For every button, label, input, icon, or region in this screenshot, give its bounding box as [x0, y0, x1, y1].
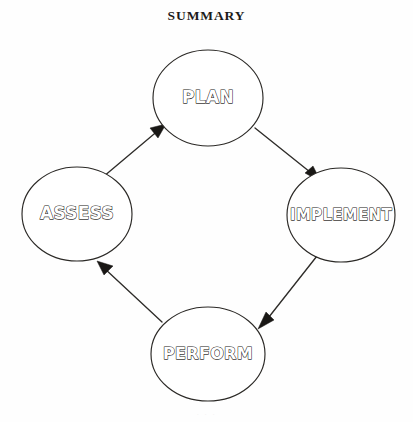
- node-implement[interactable]: IMPLEMENT IMPLEMENT: [287, 168, 395, 262]
- edge-assess-to-plan-line: [103, 129, 160, 177]
- edge-plan-to-implement: [255, 128, 321, 182]
- edge-implement-to-perform: [258, 256, 317, 329]
- cycle-diagram: SUMMARY PLAN PLAN: [0, 0, 413, 422]
- edge-assess-to-plan: [103, 124, 166, 177]
- node-implement-label: IMPLEMENT: [290, 206, 392, 224]
- node-assess[interactable]: ASSESS ASSESS: [22, 167, 132, 261]
- edge-perform-to-assess-line: [104, 268, 162, 322]
- edge-plan-to-implement-line: [255, 128, 315, 176]
- cycle-diagram-canvas: PLAN PLAN IMPLEMENT IMPLEMENT PERFORM PE…: [0, 0, 413, 422]
- scan-artifact-caption: · · ·: [0, 410, 413, 419]
- node-perform-label: PERFORM: [163, 344, 253, 363]
- edge-implement-to-perform-line: [265, 256, 317, 322]
- edge-perform-to-assess: [97, 261, 162, 322]
- node-plan[interactable]: PLAN PLAN: [153, 50, 263, 146]
- node-plan-label: PLAN: [182, 87, 234, 107]
- node-perform[interactable]: PERFORM PERFORM: [151, 307, 265, 401]
- node-assess-label: ASSESS: [40, 203, 114, 223]
- edge-perform-to-assess-arrowhead: [97, 261, 113, 275]
